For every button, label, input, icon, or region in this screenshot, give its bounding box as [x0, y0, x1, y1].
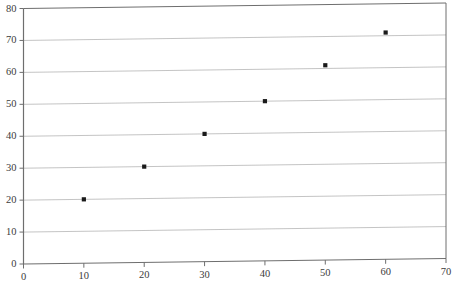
x-axis-tick-label: 30 — [199, 270, 210, 281]
y-axis-tick-label: 20 — [0, 195, 17, 206]
data-point-marker — [384, 30, 388, 34]
data-point-marker — [202, 132, 206, 136]
x-axis-tick-label: 40 — [260, 269, 271, 280]
data-point-marker — [323, 63, 327, 67]
gridline-horizontal — [24, 195, 447, 201]
plot-border-horizontal — [24, 259, 447, 265]
y-axis-tick-label: 10 — [0, 227, 17, 238]
x-axis-tick-label: 50 — [320, 268, 331, 279]
gridline-horizontal — [24, 35, 447, 41]
y-axis-tick-label: 0 — [0, 259, 17, 270]
data-point-marker — [82, 197, 86, 201]
x-axis-tick-label: 60 — [380, 267, 391, 278]
gridline-horizontal — [24, 131, 447, 137]
y-axis-tick-label: 30 — [0, 163, 17, 174]
plot-border-horizontal — [24, 3, 447, 9]
gridline-horizontal — [24, 227, 447, 233]
x-axis-tick-label: 20 — [139, 270, 150, 281]
gridline-horizontal — [24, 99, 447, 105]
gridline-horizontal — [24, 67, 447, 73]
data-point-marker — [142, 165, 146, 169]
x-axis-tick-label: 10 — [79, 271, 90, 282]
x-axis-tick-label: 0 — [21, 272, 26, 283]
x-axis-tick-label: 70 — [441, 267, 452, 278]
data-point-marker — [263, 99, 267, 103]
y-axis-tick-label: 80 — [0, 3, 17, 14]
y-axis-tick-label: 70 — [0, 35, 17, 46]
plot-area — [0, 0, 455, 293]
y-axis-tick-label: 40 — [0, 131, 17, 142]
plot-canvas — [0, 0, 455, 293]
gridline-horizontal — [24, 163, 447, 169]
y-axis-tick-label: 60 — [0, 67, 17, 78]
y-axis-tick-label: 50 — [0, 99, 17, 110]
scatter-chart: 01020304050607080 010203040506070 — [0, 0, 455, 293]
